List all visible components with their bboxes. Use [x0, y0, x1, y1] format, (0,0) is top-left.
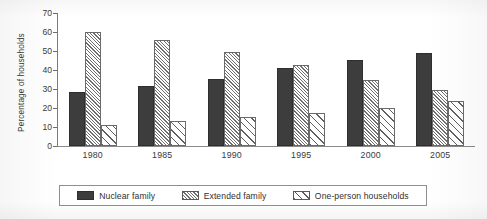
- bar-oneperson-1985: [170, 121, 186, 146]
- bar-group: [58, 13, 128, 146]
- y-axis-tick-label: 20: [30, 103, 52, 113]
- bar-nuclear-2005: [416, 53, 432, 146]
- chart-legend: Nuclear familyExtended familyOne-person …: [59, 185, 427, 206]
- bar-extended-1980: [85, 32, 101, 146]
- bar-nuclear-1980: [69, 92, 85, 146]
- bar-oneperson-1980: [101, 125, 117, 146]
- legend-swatch-oneperson: [293, 191, 310, 200]
- bar-nuclear-1995: [277, 68, 293, 146]
- legend-item-extended: Extended family: [182, 191, 267, 201]
- bar-group: [336, 13, 406, 146]
- bar-group: [197, 13, 267, 146]
- y-axis-tick-label: 0: [30, 141, 52, 151]
- bar-extended-1990: [224, 52, 240, 146]
- x-axis-tick-label: 2000: [361, 150, 381, 160]
- bar-oneperson-1995: [309, 113, 325, 146]
- bar-group: [267, 13, 337, 146]
- x-axis-tick-label: 2005: [430, 150, 450, 160]
- legend-label: Nuclear family: [99, 191, 155, 201]
- y-axis-tick-label: 50: [30, 46, 52, 56]
- legend-label: One-person households: [315, 191, 409, 201]
- x-axis-tick-label: 1985: [152, 150, 172, 160]
- bar-chart-figure: Percentage of households 010203040506070…: [0, 0, 487, 219]
- x-axis-tick-label: 1990: [222, 150, 242, 160]
- plot-area: [58, 13, 475, 146]
- y-axis-tick-label: 40: [30, 65, 52, 75]
- bar-oneperson-2000: [379, 108, 395, 146]
- y-axis-tick-label: 60: [30, 27, 52, 37]
- bar-nuclear-1985: [138, 86, 154, 146]
- legend-item-oneperson: One-person households: [293, 191, 409, 201]
- y-axis-tick-label: 30: [30, 84, 52, 94]
- legend-swatch-nuclear: [77, 191, 94, 200]
- y-axis-tick-label: 70: [30, 8, 52, 18]
- bar-extended-2005: [432, 90, 448, 146]
- legend-label: Extended family: [204, 191, 267, 201]
- bar-extended-1995: [293, 65, 309, 146]
- bar-oneperson-2005: [448, 101, 464, 146]
- legend-item-nuclear: Nuclear family: [77, 191, 155, 201]
- legend-swatch-extended: [182, 191, 199, 200]
- bar-extended-2000: [363, 80, 379, 147]
- y-axis-tick-label: 10: [30, 122, 52, 132]
- x-axis-tick-label: 1980: [83, 150, 103, 160]
- y-axis-title: Percentage of households: [17, 18, 26, 148]
- bar-group: [128, 13, 198, 146]
- bar-nuclear-1990: [208, 79, 224, 146]
- y-axis-tick-labels: 010203040506070: [28, 0, 52, 160]
- bar-group: [406, 13, 476, 146]
- bar-extended-1985: [154, 40, 170, 146]
- bar-oneperson-1990: [240, 117, 256, 146]
- x-axis-tick-label: 1995: [291, 150, 311, 160]
- bar-nuclear-2000: [347, 60, 363, 146]
- x-axis-line: [57, 146, 475, 147]
